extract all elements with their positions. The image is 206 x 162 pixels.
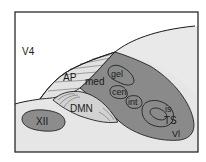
label-med: med	[85, 76, 104, 87]
diagram-canvas: V4 AP med gel cen int is TS Vl DMN XII	[0, 0, 206, 162]
label-ap: AP	[63, 72, 77, 83]
label-xii: XII	[36, 116, 48, 127]
label-gel: gel	[111, 69, 123, 79]
label-ts: TS	[164, 115, 177, 126]
label-v4: V4	[22, 46, 35, 57]
label-cen: cen	[112, 87, 127, 97]
label-is: is	[165, 104, 172, 114]
label-vl: Vl	[172, 129, 180, 139]
label-dmn: DMN	[70, 103, 93, 114]
label-int: int	[128, 97, 138, 107]
brainstem-section-diagram: V4 AP med gel cen int is TS Vl DMN XII	[0, 0, 206, 162]
